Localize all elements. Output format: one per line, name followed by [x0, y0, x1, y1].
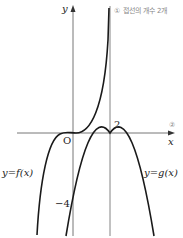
y-axis-label: y — [62, 4, 68, 14]
origin-label: O — [63, 136, 71, 146]
x-axis-arrow-icon — [168, 131, 175, 136]
curve-g-label: y=g(x) — [144, 168, 178, 178]
x-axis-label: x — [168, 137, 174, 147]
curve-f-label: y=f(x) — [2, 168, 33, 178]
annotation-tangent-count: ① 접선의 개수 2개 — [114, 8, 167, 15]
y-tick-neg4: −4 — [55, 199, 70, 209]
annotation-circled-2: ② — [169, 122, 175, 129]
graph-canvas — [0, 0, 183, 238]
x-tick-2: 2 — [114, 120, 120, 130]
y-axis-arrow-icon — [71, 5, 76, 12]
